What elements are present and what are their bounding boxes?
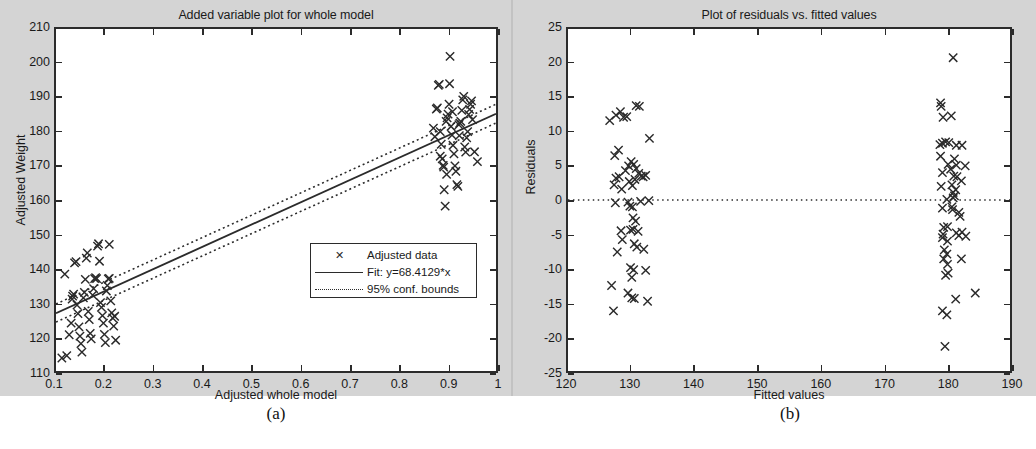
y-tick <box>490 338 496 340</box>
y-tick-label: 210 <box>6 20 50 34</box>
y-tick <box>56 62 62 64</box>
legend-label-adjusted-data: Adjusted data <box>367 249 437 261</box>
y-tick <box>490 200 496 202</box>
data-point-marker <box>437 140 445 148</box>
y-tick <box>490 62 496 64</box>
legend-label-conf-bounds: 95% conf. bounds <box>367 283 459 295</box>
x-tick <box>693 365 695 371</box>
x-tick <box>757 365 759 371</box>
y-tick <box>568 269 574 271</box>
y-tick <box>1004 200 1010 202</box>
x-tick <box>1012 29 1014 35</box>
panel-a: Added variable plot for whole model 0.10… <box>0 0 512 396</box>
figure-root: Added variable plot for whole model 0.10… <box>0 0 1036 449</box>
y-tick <box>1004 373 1010 375</box>
y-tick <box>56 338 62 340</box>
y-tick <box>568 304 574 306</box>
data-point-marker <box>642 266 650 274</box>
y-tick <box>56 27 62 29</box>
x-tick <box>757 29 759 35</box>
x-tick-label: 170 <box>874 377 895 391</box>
panel-b-y-axis-title: Residuals <box>524 102 538 232</box>
y-tick-label: -25 <box>518 366 562 380</box>
data-point-marker <box>84 307 92 315</box>
panel-a-y-axis-title: Adjusted Weight <box>14 100 28 260</box>
panel-b: Plot of residuals vs. fitted values 1201… <box>512 0 1036 396</box>
y-tick <box>1004 304 1010 306</box>
x-tick <box>350 365 352 371</box>
data-point-marker <box>61 270 69 278</box>
y-tick-label: 180 <box>6 124 50 138</box>
y-tick <box>56 96 62 98</box>
data-point-marker <box>937 182 945 190</box>
y-tick-label: 110 <box>6 366 50 380</box>
solid-line-icon <box>315 272 363 273</box>
x-tick-label: 0.4 <box>193 377 210 391</box>
data-point-marker <box>628 273 636 281</box>
y-tick <box>490 269 496 271</box>
data-point-marker <box>645 134 653 142</box>
caption-b: (b) <box>730 404 850 424</box>
data-point-marker <box>952 161 960 169</box>
x-tick <box>202 365 204 371</box>
x-tick <box>498 365 500 371</box>
x-tick-label: 0.2 <box>95 377 112 391</box>
data-point-marker <box>80 288 88 296</box>
data-point-marker <box>961 162 969 170</box>
x-tick <box>1012 365 1014 371</box>
y-tick <box>56 269 62 271</box>
data-point-marker <box>618 185 626 193</box>
y-tick <box>1004 165 1010 167</box>
x-tick <box>693 29 695 35</box>
x-tick-label: 180 <box>938 377 959 391</box>
data-point-marker <box>89 284 97 292</box>
data-point-marker <box>101 338 109 346</box>
data-point-marker <box>452 167 460 175</box>
data-point-marker <box>445 100 453 108</box>
y-tick <box>490 304 496 306</box>
x-tick-label: 1 <box>495 377 502 391</box>
x-tick <box>202 29 204 35</box>
data-point-marker <box>105 274 113 282</box>
x-tick <box>301 365 303 371</box>
x-tick-label: 140 <box>683 377 704 391</box>
y-tick <box>568 235 574 237</box>
y-tick <box>56 304 62 306</box>
data-point-marker <box>645 197 653 205</box>
data-point-marker <box>83 249 91 257</box>
x-tick <box>399 365 401 371</box>
data-point-marker <box>613 248 621 256</box>
x-tick <box>301 29 303 35</box>
data-point-marker <box>611 151 619 159</box>
x-tick <box>350 29 352 35</box>
data-point-marker <box>943 260 951 268</box>
data-point-marker <box>611 199 619 207</box>
x-tick <box>566 29 568 35</box>
x-tick <box>566 365 568 371</box>
data-point-marker <box>462 148 470 156</box>
data-point-marker <box>939 113 947 121</box>
data-point-marker <box>110 322 118 330</box>
x-tick <box>399 29 401 35</box>
scatter-series <box>606 54 980 351</box>
data-point-marker <box>75 323 83 331</box>
legend-sample-solid-line <box>311 263 367 281</box>
legend-entry-fit: Fit: y=68.4129*x <box>311 263 476 281</box>
panel-a-plot-area <box>54 27 498 373</box>
y-tick <box>568 165 574 167</box>
x-tick <box>885 365 887 371</box>
y-tick-label: 130 <box>6 297 50 311</box>
data-point-marker <box>85 316 93 324</box>
data-point-marker <box>936 152 944 160</box>
y-tick <box>568 131 574 133</box>
data-point-marker <box>95 257 103 265</box>
y-tick-label: 150 <box>6 228 50 242</box>
x-tick <box>821 29 823 35</box>
data-point-marker <box>947 112 955 120</box>
y-tick <box>568 373 574 375</box>
y-tick <box>56 165 62 167</box>
panel-a-data-layer <box>56 29 496 371</box>
data-point-marker <box>441 202 449 210</box>
data-point-marker <box>617 227 625 235</box>
data-point-marker <box>87 335 95 343</box>
